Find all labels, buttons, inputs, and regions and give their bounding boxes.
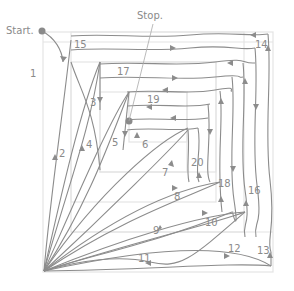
step-label-14: 14 — [255, 39, 268, 50]
step-label-2: 2 — [59, 148, 65, 159]
stop-label: Stop. — [137, 10, 163, 21]
step-label-17: 17 — [117, 66, 130, 77]
start-marker: Start. — [6, 25, 63, 62]
step-label-8: 8 — [174, 191, 180, 202]
step-label-19: 19 — [147, 94, 160, 105]
step-label-10: 10 — [205, 217, 218, 228]
step-label-20: 20 — [191, 157, 204, 168]
step-label-13: 13 — [257, 245, 270, 256]
step-label-7: 7 — [162, 167, 168, 178]
step-labels: 1 2 3 4 5 6 7 8 9 10 11 12 13 14 15 16 1… — [30, 39, 270, 264]
step-label-9: 9 — [153, 225, 159, 236]
stop-marker: Stop. — [126, 10, 163, 125]
log-cabin-diagram: Start. Stop. 1 2 3 4 5 6 7 8 9 10 11 12 … — [0, 0, 294, 291]
step-label-1: 1 — [30, 68, 36, 79]
step-label-15: 15 — [74, 39, 87, 50]
step-label-11: 11 — [138, 253, 151, 264]
step-label-4: 4 — [86, 139, 92, 150]
step-label-5: 5 — [112, 137, 118, 148]
step-label-6: 6 — [142, 139, 148, 150]
grid-squares — [43, 32, 273, 272]
step-label-16: 16 — [248, 185, 261, 196]
start-label: Start. — [6, 25, 34, 36]
fan-curves — [44, 40, 271, 271]
step-label-12: 12 — [228, 243, 241, 254]
step-label-18: 18 — [218, 178, 231, 189]
step-label-3: 3 — [90, 97, 96, 108]
